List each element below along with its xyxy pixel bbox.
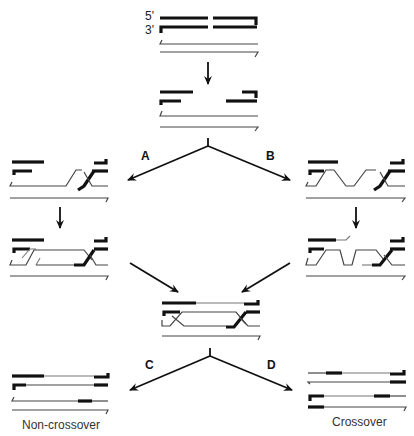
arrow-to-b xyxy=(208,146,290,180)
arrow-to-c xyxy=(130,356,210,390)
stage-a-synthesis xyxy=(10,237,108,280)
stage-a-strand-invasion xyxy=(10,159,108,202)
product-non-crossover xyxy=(12,373,108,414)
arrow-converge-right xyxy=(242,263,290,292)
stage-resection xyxy=(160,92,258,131)
outcome-crossover: Crossover xyxy=(332,415,387,429)
step-label-c: C xyxy=(145,358,154,372)
stage-b-synthesis xyxy=(306,236,405,280)
arrow-converge-left xyxy=(130,263,178,292)
arrow-to-d xyxy=(210,356,292,390)
product-crossover xyxy=(308,370,406,411)
stage-double-strand-break xyxy=(160,18,258,57)
arrow-to-a xyxy=(128,146,208,180)
stage-b-second-end-capture xyxy=(306,159,405,202)
outcome-non-crossover: Non-crossover xyxy=(22,418,100,432)
step-label-d: D xyxy=(267,358,276,372)
stage-double-holliday-junction xyxy=(162,300,260,340)
label-3-prime: 3' xyxy=(145,23,154,37)
step-label-b: B xyxy=(266,149,275,163)
step-label-a: A xyxy=(141,149,150,163)
label-5-prime: 5' xyxy=(145,9,154,23)
dsb-repair-diagram xyxy=(0,0,414,436)
